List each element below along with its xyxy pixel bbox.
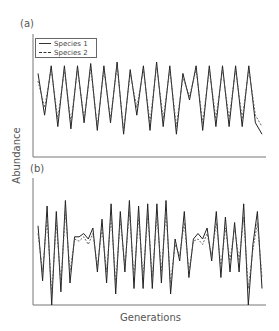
dashed-line-icon — [39, 52, 51, 53]
panel-b-series — [38, 201, 262, 306]
series-line — [38, 62, 262, 134]
legend-label: Species 2 — [54, 49, 88, 57]
y-axis-title: Abundance — [11, 126, 22, 186]
panel-a-label: (a) — [20, 18, 34, 29]
panel-a-series — [38, 62, 262, 134]
panel-b-label: (b) — [30, 163, 44, 174]
legend-label: Species 1 — [54, 40, 88, 48]
x-axis-title: Generations — [0, 312, 279, 323]
legend-item-species-2: Species 2 — [36, 48, 96, 57]
legend: Species 1 Species 2 — [35, 38, 97, 58]
solid-line-icon — [39, 43, 51, 44]
legend-item-species-1: Species 1 — [36, 39, 96, 48]
